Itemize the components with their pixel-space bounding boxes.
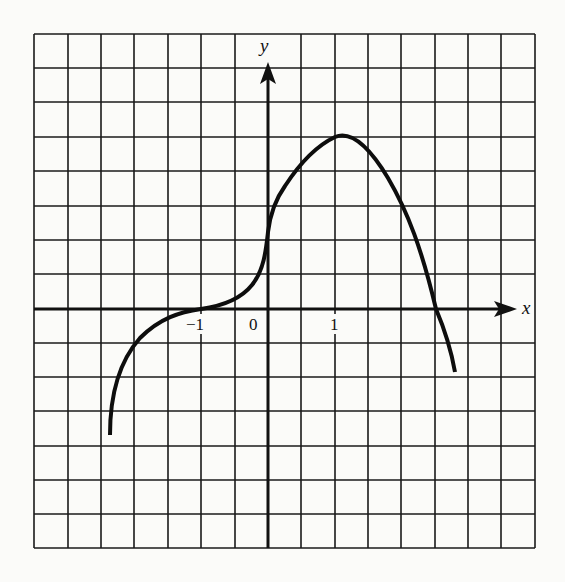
tick-label-0: 0 <box>249 315 258 334</box>
tick-label-neg1: −1 <box>186 315 204 334</box>
tick-label-1: 1 <box>330 315 339 334</box>
function-graph: x y −1 0 1 <box>0 0 565 582</box>
function-curve <box>110 135 455 435</box>
x-axis-label: x <box>521 297 531 318</box>
grid <box>34 34 535 548</box>
y-axis-label: y <box>258 35 269 56</box>
